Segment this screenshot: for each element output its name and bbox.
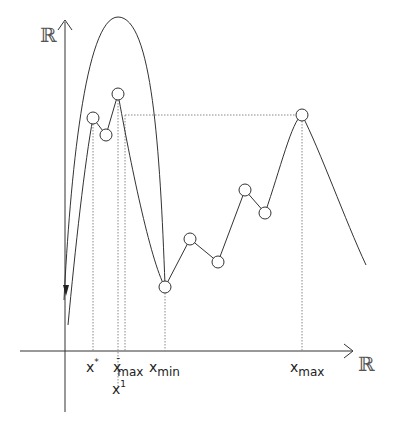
- x-markers: x* x-max x1 xmin xmax: [86, 351, 324, 397]
- optimization-diagram: ℝ ℝ: [0, 0, 398, 438]
- label-x-max: xmax: [290, 359, 324, 379]
- sample-points: [87, 88, 308, 293]
- function-curve: [68, 94, 366, 325]
- guide-lines: [93, 100, 302, 386]
- x-axis-label: ℝ: [358, 352, 375, 376]
- sample-point: [100, 129, 112, 141]
- y-axis-label: ℝ: [40, 23, 57, 47]
- label-x-one: x1: [112, 379, 126, 397]
- sample-point: [112, 88, 124, 100]
- sample-point: [159, 281, 171, 293]
- sample-point: [87, 112, 99, 124]
- label-x-min: xmin: [149, 359, 180, 379]
- y-axis: ℝ: [40, 20, 72, 412]
- parabola-curve: [64, 17, 165, 300]
- label-x-star: x*: [86, 357, 99, 375]
- sample-point: [212, 256, 224, 268]
- sample-point: [239, 184, 251, 196]
- label-x-bar-max: x-max: [113, 351, 143, 379]
- sample-point: [296, 109, 308, 121]
- sample-point: [184, 233, 196, 245]
- sample-point: [259, 207, 271, 219]
